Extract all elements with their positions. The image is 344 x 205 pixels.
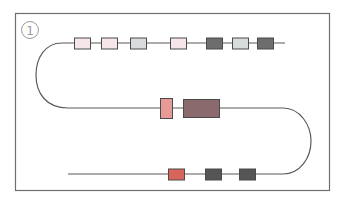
- mid-exon-box: [161, 99, 173, 119]
- bottom-strand-boxes: [169, 169, 256, 180]
- diagram-canvas: 1: [0, 0, 344, 205]
- top-strand-boxes: [75, 38, 274, 49]
- top-exon-box: [258, 38, 274, 49]
- top-exon-box: [171, 38, 187, 49]
- top-exon-box: [131, 38, 147, 49]
- top-exon-box: [207, 38, 223, 49]
- dna-strand: [36, 43, 311, 174]
- mid-exon-box: [184, 100, 220, 118]
- middle-strand-boxes: [161, 99, 220, 119]
- top-exon-box: [75, 38, 91, 49]
- top-exon-box: [102, 38, 118, 49]
- top-exon-box: [233, 38, 249, 49]
- bot-exon-box: [206, 169, 222, 180]
- bot-exon-box: [169, 169, 185, 180]
- bot-exon-box: [240, 169, 256, 180]
- figure-label: 1: [26, 24, 34, 38]
